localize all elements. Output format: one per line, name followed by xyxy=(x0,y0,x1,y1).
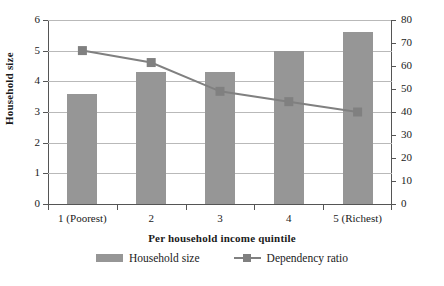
x-axis-tick xyxy=(323,205,324,210)
legend-item-label: Household size xyxy=(129,252,200,264)
legend-item-label: Dependency ratio xyxy=(267,252,348,264)
y-axis-right-tick-label: 40 xyxy=(401,106,412,117)
line-path xyxy=(82,51,357,112)
line-marker xyxy=(216,87,225,96)
line-marker xyxy=(353,108,362,117)
y-axis-left-tick-label: 3 xyxy=(35,106,41,117)
y-axis-left-title: Household size xyxy=(3,111,15,125)
legend-item[interactable]: Household size xyxy=(96,252,200,264)
legend-item[interactable]: Dependency ratio xyxy=(234,252,348,264)
y-axis-right-tick-label: 10 xyxy=(401,175,412,186)
y-axis-left-title-text: Household size xyxy=(3,52,15,125)
y-axis-left-tick-label: 2 xyxy=(35,137,41,148)
legend-line-marker-icon xyxy=(234,254,261,262)
y-axis-left-tick-label: 0 xyxy=(35,198,41,209)
y-axis-right-tick-label: 60 xyxy=(401,60,412,71)
y-axis-right-tick-label: 0 xyxy=(401,198,407,209)
x-axis-tick xyxy=(254,205,255,210)
y-axis-left-tick-label: 5 xyxy=(35,45,41,56)
line-marker xyxy=(284,97,293,106)
x-axis-tick xyxy=(186,205,187,210)
chart-legend: Household sizeDependency ratio xyxy=(0,252,444,264)
x-axis-category-label: 5 (Richest) xyxy=(333,212,382,224)
y-axis-left-tick-label: 4 xyxy=(35,75,41,86)
plot-area: 0123456 01020304050607080 1 (Poorest)234… xyxy=(48,20,392,205)
x-axis-tick xyxy=(117,205,118,210)
y-axis-right-tick-label: 80 xyxy=(401,14,412,25)
line-marker xyxy=(147,58,156,67)
x-axis-title: Per household income quintile xyxy=(0,232,444,244)
y-axis-right-tick-label: 70 xyxy=(401,37,412,48)
y-axis-right-tick-label: 50 xyxy=(401,83,412,94)
x-axis-tick xyxy=(391,205,392,210)
x-axis-category-label: 1 (Poorest) xyxy=(58,212,107,224)
x-axis-title-text: Per household income quintile xyxy=(148,232,296,244)
x-axis-tick xyxy=(48,205,49,210)
x-axis-category-label: 4 xyxy=(286,212,292,224)
legend-bar-swatch-icon xyxy=(96,254,123,262)
y-axis-right-tick-label: 30 xyxy=(401,129,412,140)
chart-container: Household size Dependency ratio (%) Per … xyxy=(0,0,444,286)
line-marker xyxy=(78,46,87,55)
x-axis-category-label: 2 xyxy=(148,212,154,224)
y-axis-left-tick-label: 1 xyxy=(35,167,41,178)
y-axis-right-tick-label: 20 xyxy=(401,152,412,163)
x-axis-category-label: 3 xyxy=(217,212,223,224)
y-axis-left-tick-label: 6 xyxy=(35,14,41,25)
line-series xyxy=(48,20,392,205)
